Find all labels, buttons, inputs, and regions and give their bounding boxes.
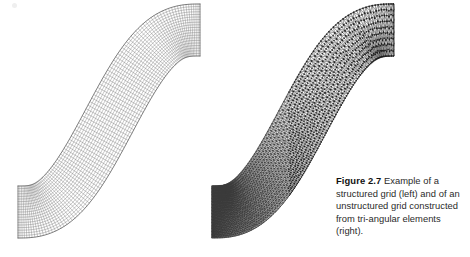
figure-page: Figure 2.7 Example of a structured grid … xyxy=(0,0,470,257)
figure-caption: Figure 2.7 Example of a structured grid … xyxy=(336,175,462,238)
structured-grid-figure xyxy=(18,4,200,238)
figure-caption-label: Figure 2.7 xyxy=(336,175,381,186)
scan-speck-icon xyxy=(12,3,17,8)
